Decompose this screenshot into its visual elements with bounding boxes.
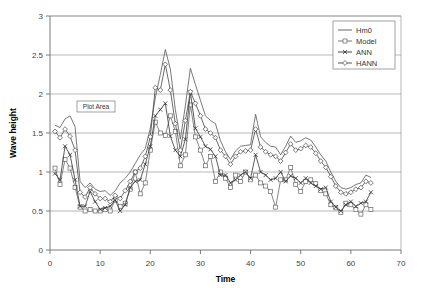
series-marker-Model — [239, 179, 243, 183]
x-tick-label-50: 50 — [296, 259, 305, 268]
plot-area-tooltip-label: Plot Area — [83, 103, 110, 110]
legend-label-Hm0: Hm0 — [356, 26, 372, 35]
series-marker-Model — [168, 114, 172, 118]
x-tick-label-30: 30 — [196, 259, 205, 268]
legend-label-Model: Model — [356, 37, 377, 46]
series-marker-Model — [108, 209, 112, 213]
x-tick-label-40: 40 — [246, 259, 255, 268]
series-marker-Model — [208, 154, 212, 158]
y-tick-label-1.5: 1.5 — [32, 129, 44, 138]
y-tick-label-0.5: 0.5 — [32, 207, 44, 216]
x-axis-title: Time — [216, 274, 236, 284]
series-marker-Model — [58, 182, 62, 186]
series-marker-Model — [138, 192, 142, 196]
series-marker-Model — [53, 166, 57, 170]
series-marker-Model — [264, 184, 268, 188]
series-marker-Model — [369, 207, 373, 211]
series-marker-Model — [193, 135, 197, 139]
series-marker-Model — [203, 164, 207, 168]
series-marker-Model — [158, 131, 162, 135]
x-tick-label-0: 0 — [48, 259, 53, 268]
y-axis-title: Wave height — [8, 108, 18, 158]
series-marker-Model — [198, 148, 202, 152]
series-marker-Model — [143, 181, 147, 185]
legend-label-ANN: ANN — [356, 48, 372, 57]
series-marker-Model — [93, 209, 97, 213]
series-marker-Model — [254, 173, 258, 177]
series-marker-Model — [178, 164, 182, 168]
y-tick-label-0: 0 — [39, 246, 44, 255]
chart-container: 00.511.522.53010203040506070TimeWave hei… — [0, 0, 424, 288]
series-marker-Model — [88, 207, 92, 211]
y-tick-label-2: 2 — [39, 90, 44, 99]
x-tick-label-10: 10 — [96, 259, 105, 268]
series-marker-Model — [359, 212, 363, 216]
series-marker-Model — [234, 173, 238, 177]
series-marker-Model — [163, 133, 167, 137]
y-tick-label-2.5: 2.5 — [32, 51, 44, 60]
series-marker-Model — [269, 190, 273, 194]
series-marker-Model — [259, 181, 263, 185]
x-tick-label-60: 60 — [346, 259, 355, 268]
legend-marker-Model — [343, 39, 347, 43]
series-marker-Model — [83, 209, 87, 213]
x-tick-label-70: 70 — [397, 259, 406, 268]
series-marker-Model — [183, 153, 187, 157]
series-marker-Model — [213, 179, 217, 183]
y-tick-label-3: 3 — [39, 12, 44, 21]
series-marker-Model — [289, 165, 293, 169]
x-tick-label-20: 20 — [146, 259, 155, 268]
series-marker-Model — [229, 186, 233, 190]
series-marker-Model — [274, 205, 278, 209]
series-marker-Model — [294, 182, 298, 186]
y-tick-label-1: 1 — [39, 168, 44, 177]
series-marker-Model — [299, 190, 303, 194]
series-marker-Model — [68, 166, 72, 170]
wave-height-line-chart: 00.511.522.53010203040506070TimeWave hei… — [0, 0, 424, 288]
legend-label-HANN: HANN — [356, 59, 377, 68]
series-marker-Model — [279, 178, 283, 182]
